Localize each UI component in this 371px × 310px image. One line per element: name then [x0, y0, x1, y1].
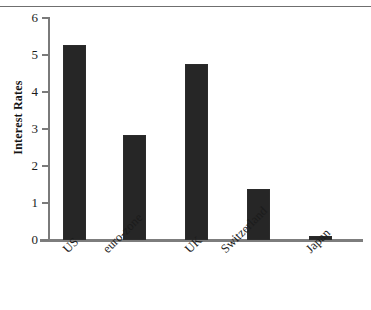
y-axis-title: Interest Rates — [11, 58, 26, 178]
y-tick-label-6: 6 — [22, 11, 38, 24]
y-tick-label-0-wrap: 0 — [20, 233, 38, 247]
y-tick-label-0: 0 — [22, 233, 38, 246]
y-tick-mark-0 — [42, 239, 49, 241]
bar-uk — [185, 64, 208, 240]
y-tick-mark-3 — [42, 128, 49, 130]
y-tick-label-6-wrap: 6 — [20, 11, 38, 25]
y-tick-mark-2 — [42, 165, 49, 167]
y-tick-mark-4 — [42, 91, 49, 93]
y-tick-mark-5 — [42, 54, 49, 56]
y-tick-mark-6 — [42, 17, 49, 19]
bar-us — [63, 45, 86, 240]
y-tick-mark-1 — [42, 202, 49, 204]
y-tick-label-1-wrap: 1 — [20, 196, 38, 210]
y-tick-label-1: 1 — [22, 196, 38, 209]
chart-figure: 6 5 4 3 2 1 0 Interest Rates — [0, 0, 371, 310]
bar-chart-plot-area: 6 5 4 3 2 1 0 Interest Rates — [0, 0, 371, 310]
